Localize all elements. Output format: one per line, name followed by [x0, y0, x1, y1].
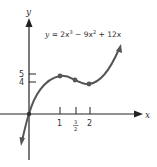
- point-origin: [27, 112, 31, 116]
- x-axis-label: x: [145, 110, 150, 120]
- cubic-curve: [22, 49, 119, 141]
- x-axis-arrow-icon: [134, 111, 143, 118]
- chart-title: y = 2x3 − 9x2 + 12x: [44, 29, 122, 39]
- x-tick-label-2: 2: [87, 119, 92, 128]
- curve-arrow-lower-icon: [20, 137, 26, 146]
- x-tick-label-1.5-den: 2: [74, 126, 77, 132]
- point-local-max: [58, 74, 63, 79]
- x-tick-label-1.5-num: 3: [74, 119, 77, 125]
- cubic-function-chart: x y y = 2x3 − 9x2 + 12x 1 3 2 2 5 4: [0, 0, 157, 167]
- y-axis-label: y: [25, 7, 32, 17]
- y-tick-label-4: 4: [19, 78, 24, 87]
- point-local-min: [87, 82, 92, 87]
- y-axis-arrow-icon: [26, 18, 33, 27]
- x-tick-label-1: 1: [57, 119, 62, 128]
- point-inflection: [73, 78, 78, 83]
